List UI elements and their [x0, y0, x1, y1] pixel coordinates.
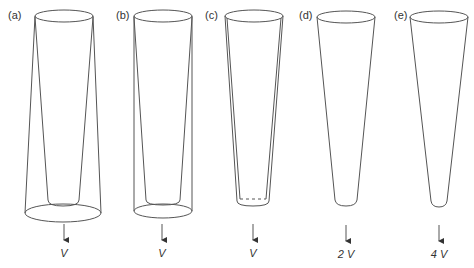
panel-c: (c) V: [205, 9, 283, 259]
flow-rate-a: V: [60, 247, 69, 259]
outer-wall-right: [93, 16, 101, 213]
bottom-base-ellipse: [25, 204, 101, 222]
top-opening-ellipse: [35, 10, 93, 22]
panel-c-label: (c): [205, 9, 218, 21]
panel-b: (b) V: [116, 9, 192, 259]
panel-d-label: (d): [299, 9, 312, 21]
panel-a-label: (a): [8, 9, 21, 21]
flow-rate-c: V: [249, 247, 258, 259]
bottom-rim: [237, 201, 269, 206]
top-opening-ellipse: [134, 10, 192, 22]
flow-rate-d: 2 V: [337, 248, 356, 260]
wall-right: [357, 17, 375, 200]
outer-wall-right: [269, 16, 283, 201]
bottom-base-ellipse: [134, 204, 192, 218]
inner-rod-left: [134, 17, 146, 200]
panel-e-label: (e): [394, 9, 407, 21]
inner-wall-left: [227, 18, 240, 199]
tube-bottom: [431, 201, 447, 207]
flow-rate-e: 4 V: [431, 248, 449, 260]
inner-rod-right: [180, 17, 192, 200]
inner-rod-left: [35, 17, 48, 200]
outer-wall-left: [25, 16, 35, 213]
inner-rod-bottom: [48, 200, 79, 206]
panel-e: (e) 4 V: [394, 9, 468, 260]
top-opening-ellipse: [317, 11, 375, 23]
diagram-canvas: (a) V (b) V (c) V (d): [0, 0, 474, 268]
panel-a: (a) V: [8, 9, 101, 259]
panel-b-label: (b): [116, 9, 129, 21]
panel-d: (d) 2 V: [299, 9, 375, 260]
wall-left: [317, 17, 335, 200]
inner-wall-right: [266, 18, 281, 199]
inner-rod-right: [79, 17, 93, 200]
wall-right: [447, 17, 468, 201]
outer-wall-left: [225, 16, 237, 201]
top-opening-ellipse: [225, 10, 283, 22]
top-opening-ellipse: [410, 11, 468, 23]
wall-left: [410, 17, 431, 201]
tube-bottom: [335, 200, 357, 206]
flow-rate-b: V: [158, 247, 167, 259]
